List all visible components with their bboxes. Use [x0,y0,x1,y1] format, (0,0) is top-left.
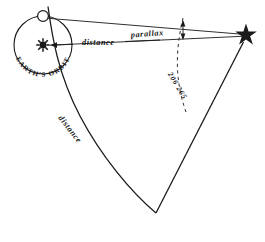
right-side-to-star [156,42,244,213]
distance-label-lower: distance [56,114,83,145]
sun-marker [36,38,50,52]
distance-label-upper: distance [82,38,115,47]
arcseconds-label: 206 265 [165,69,189,101]
parallax-diagram: EARTH'S ORBIT 206 265 distance parallax … [0,0,265,242]
diagram-canvas: EARTH'S ORBIT 206 265 distance parallax … [0,0,265,242]
parallax-angle-indicator [181,20,186,40]
earth-position-marker [38,11,49,22]
parallax-label: parallax [129,28,164,39]
